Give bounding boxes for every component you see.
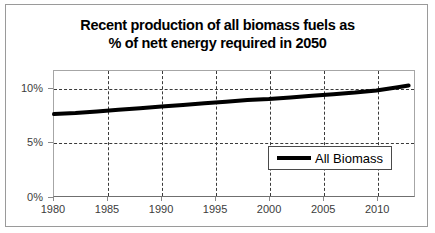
chart-title: Recent production of all biomass fuels a…	[6, 16, 429, 52]
y-axis-tick-label: 10%	[3, 82, 43, 94]
x-axis-tick-label: 2000	[246, 203, 292, 215]
y-axis-tick-label: 0%	[3, 191, 43, 203]
x-axis-tick-mark	[107, 197, 108, 201]
x-axis-tick-mark	[377, 197, 378, 201]
series-line-all-biomass	[54, 71, 414, 196]
x-axis-tick-mark	[323, 197, 324, 201]
x-axis-tick-label: 1995	[192, 203, 238, 215]
chart-title-line-1: Recent production of all biomass fuels a…	[6, 16, 429, 34]
chart-frame: Recent production of all biomass fuels a…	[5, 4, 428, 227]
chart-title-line-2: % of nett energy required in 2050	[6, 34, 429, 52]
chart-legend: All Biomass	[268, 146, 392, 170]
legend-label-all-biomass: All Biomass	[315, 151, 383, 166]
plot-area: All Biomass	[53, 70, 415, 197]
x-axis-tick-mark	[215, 197, 216, 201]
x-axis-tick-label: 2005	[300, 203, 346, 215]
x-axis-tick-mark	[53, 197, 54, 201]
y-axis-tick-label: 5%	[3, 136, 43, 148]
x-axis-tick-label: 1985	[84, 203, 130, 215]
x-axis-tick-mark	[269, 197, 270, 201]
x-axis-tick-mark	[161, 197, 162, 201]
x-axis-tick-label: 1980	[30, 203, 76, 215]
legend-swatch-all-biomass	[277, 156, 311, 160]
x-axis-tick-label: 2010	[354, 203, 400, 215]
x-axis-tick-label: 1990	[138, 203, 184, 215]
